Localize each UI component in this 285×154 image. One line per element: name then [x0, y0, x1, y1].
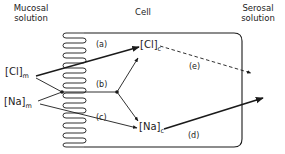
serosal-label-line1: Serosal: [233, 3, 283, 13]
na-mucosal-label: [Na]m: [4, 96, 32, 112]
cl-m-subscript: m: [23, 72, 29, 80]
cl-cell-label: [Cl]c: [140, 39, 161, 55]
cl-m-symbol: [Cl]: [5, 66, 23, 77]
pathway-b-cl-branch: [36, 78, 62, 92]
serosal-label-line2: solution: [233, 13, 283, 23]
pathway-e-arrow: [160, 46, 251, 73]
pathway-d-arrow: [164, 98, 263, 129]
cell-label: Cell: [135, 7, 151, 17]
cotransport-node-left: [60, 90, 64, 94]
pathway-b-to-cl: [117, 58, 138, 92]
pathway-c-arrow: [40, 104, 137, 128]
pathway-c-label: (c): [96, 113, 107, 123]
pathway-e-label: (e): [189, 62, 200, 72]
pathway-b-na-branch: [38, 92, 62, 101]
microvilli-brush-border: [63, 33, 86, 147]
na-c-symbol: [Na]: [139, 121, 160, 132]
cotransport-node-right: [115, 90, 119, 94]
cl-c-subscript: c: [158, 45, 162, 53]
na-m-subscript: m: [25, 102, 31, 110]
pathway-a-label: (a): [96, 40, 107, 50]
na-cell-label: [Na]c: [139, 121, 164, 137]
cl-c-symbol: [Cl]: [140, 39, 158, 50]
serosal-label: Serosal solution: [233, 3, 283, 23]
pathway-a-arrow: [36, 47, 139, 76]
na-m-symbol: [Na]: [4, 96, 25, 107]
mucosal-label-line2: solution: [6, 13, 56, 23]
pathway-d-label: (d): [188, 131, 199, 141]
mucosal-label-line1: Mucosal: [6, 3, 56, 13]
na-c-subscript: c: [160, 127, 164, 135]
cl-mucosal-label: [Cl]m: [5, 66, 29, 82]
pathway-b-label: (b): [96, 80, 107, 90]
pathway-b-to-na: [117, 92, 138, 121]
mucosal-label: Mucosal solution: [6, 3, 56, 23]
